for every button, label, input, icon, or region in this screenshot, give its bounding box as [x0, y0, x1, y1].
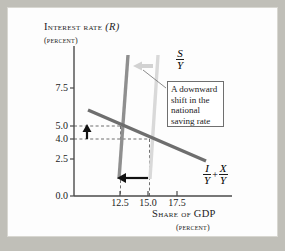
callout-line-2: shift in the — [171, 95, 220, 106]
fraction-numerator-x: X — [219, 163, 228, 174]
curve-label-investment-netexports: I Y + X Y — [203, 163, 228, 186]
y-axis-title: Interest rate (R) — [44, 22, 120, 33]
y-tick-label-4-0: 4.0 — [44, 134, 68, 144]
shift-arrow-horizontal-icon — [117, 173, 148, 183]
fraction-denominator-y-i: Y — [203, 174, 211, 186]
fraction-denominator-y: Y — [176, 59, 184, 71]
fraction-x-over-y: X Y — [219, 163, 228, 186]
plus-operator: + — [211, 169, 219, 180]
y-axis-title-variable: (R) — [105, 21, 119, 32]
callout-line-3: national — [171, 105, 220, 116]
x-tick-label-15-0: 15.0 — [132, 198, 164, 208]
y-tick-label-0-0: 0.0 — [44, 191, 68, 201]
fraction-denominator-y-x: Y — [219, 174, 228, 186]
fraction-numerator-i: I — [203, 163, 211, 174]
curve-label-saving: S Y — [176, 48, 184, 71]
x-axis-subtitle: (percent) — [176, 224, 210, 232]
y-tick-label-7-5: 7.5 — [44, 83, 68, 93]
fraction-i-over-y: I Y — [203, 163, 211, 186]
callout-line-4: saving rate — [171, 116, 220, 127]
x-axis-title: Share of GDP — [152, 209, 216, 220]
y-axis-subtitle: (percent) — [44, 37, 78, 45]
y-tick-label-5-0: 5.0 — [44, 121, 68, 131]
y-axis-title-text: Interest rate — [44, 21, 102, 32]
fraction-numerator-s: S — [176, 48, 184, 59]
figure-container: Interest rate (R) (percent) Share of GDP… — [0, 0, 285, 251]
rate-rise-arrow-icon — [83, 124, 92, 139]
callout-box: A downward shift in the national saving … — [167, 81, 224, 127]
fraction-s-over-y: S Y — [176, 48, 184, 71]
curve-saving-shifted — [119, 55, 128, 179]
curve-saving-original — [150, 55, 158, 179]
callout-line-1: A downward — [171, 84, 220, 95]
y-tick-label-2-5: 2.5 — [44, 154, 68, 164]
x-tick-label-17-5: 17.5 — [161, 198, 193, 208]
chart-canvas — [0, 0, 285, 251]
shift-arrow-curve-icon — [133, 62, 153, 71]
